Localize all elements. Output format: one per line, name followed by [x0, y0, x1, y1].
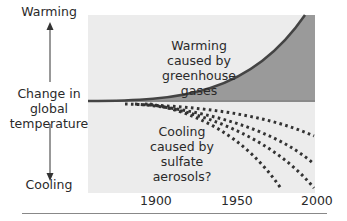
- x-tick-2000: 2000: [301, 193, 333, 208]
- x-tick-1950: 1950: [221, 193, 253, 208]
- x-tick-1900: 1900: [140, 193, 172, 208]
- cooling-annotation: Cooling caused by sulfate aerosols?: [147, 124, 217, 184]
- warming-annotation: Warming caused by greenhouse gases: [160, 38, 238, 98]
- chart-curves: [0, 0, 347, 221]
- bottom-rule: [22, 213, 327, 214]
